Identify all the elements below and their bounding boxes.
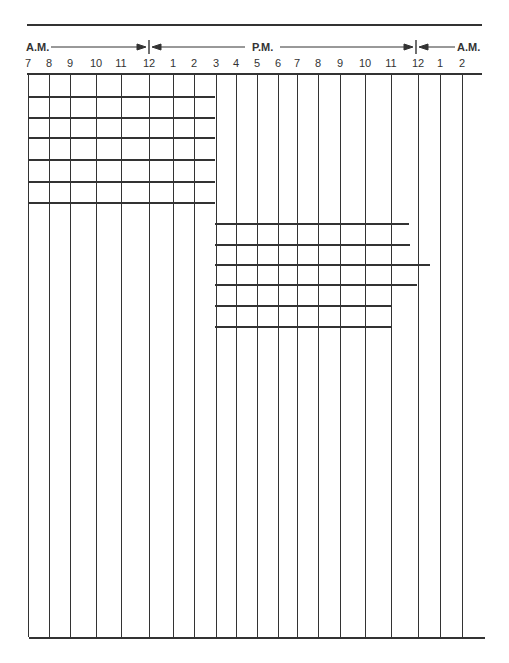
- hour-label: 1: [170, 57, 176, 69]
- hour-column-line: [297, 73, 298, 637]
- bottom-rule: [29, 637, 485, 639]
- hour-column-line: [440, 73, 441, 637]
- hour-label: 8: [315, 57, 321, 69]
- hour-column-line: [340, 73, 341, 637]
- hour-label: 2: [191, 57, 197, 69]
- hour-label: 3: [213, 57, 219, 69]
- hour-label: 10: [359, 57, 371, 69]
- morning-row-line: [28, 137, 215, 139]
- hour-label: 5: [254, 57, 260, 69]
- hour-column-line: [96, 73, 97, 637]
- hour-column-line: [257, 73, 258, 637]
- evening-row-line: [215, 264, 430, 266]
- hour-column-line: [462, 73, 463, 637]
- hour-column-line: [149, 73, 150, 637]
- hour-column-line: [216, 73, 217, 637]
- hour-label: 12: [143, 57, 155, 69]
- hour-column-line: [418, 73, 419, 637]
- hour-column-line: [121, 73, 122, 637]
- morning-row-line: [28, 159, 215, 161]
- hour-label: 4: [233, 57, 239, 69]
- hour-column-line: [49, 73, 50, 637]
- hour-label: 11: [115, 57, 126, 69]
- hour-column-line: [236, 73, 237, 637]
- hour-label: 11: [385, 57, 396, 69]
- morning-row-line: [28, 96, 215, 98]
- hour-label: 10: [90, 57, 102, 69]
- hour-label: 1: [437, 57, 443, 69]
- hour-label: 8: [46, 57, 52, 69]
- hour-column-line: [365, 73, 366, 637]
- morning-row-line: [28, 202, 215, 204]
- hour-column-line: [28, 73, 29, 637]
- morning-row-line: [28, 117, 215, 119]
- hour-column-line: [194, 73, 195, 637]
- hour-label: 6: [275, 57, 281, 69]
- morning-row-line: [28, 181, 215, 183]
- hour-column-line: [278, 73, 279, 637]
- hour-column-line: [173, 73, 174, 637]
- hour-column-line: [70, 73, 71, 637]
- evening-row-line: [215, 326, 391, 328]
- hour-label: 7: [294, 57, 300, 69]
- hour-column-line: [318, 73, 319, 637]
- hour-label: 9: [337, 57, 343, 69]
- hour-label: 9: [67, 57, 73, 69]
- hour-label: 12: [412, 57, 424, 69]
- evening-row-line: [215, 244, 410, 246]
- hour-column-line: [391, 73, 392, 637]
- evening-row-line: [215, 305, 391, 307]
- evening-row-line: [215, 284, 417, 286]
- hour-label: 7: [25, 57, 31, 69]
- evening-row-line: [215, 223, 409, 225]
- hour-label: 2: [459, 57, 465, 69]
